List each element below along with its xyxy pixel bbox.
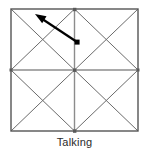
arrow-source-marker (75, 40, 80, 45)
talking-figure: Talking (0, 0, 149, 153)
node-top-mid (73, 8, 76, 11)
node-center (73, 69, 76, 72)
arrow-shaft (40, 18, 77, 43)
node-right-mid (137, 69, 140, 72)
grid-diagram (0, 0, 149, 153)
figure-caption: Talking (0, 136, 149, 149)
node-left-mid (10, 69, 13, 72)
node-bottom-mid (73, 129, 76, 132)
